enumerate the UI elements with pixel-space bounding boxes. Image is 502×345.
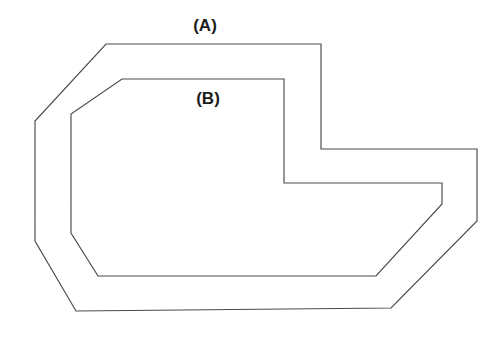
- label-b: (B): [196, 89, 220, 109]
- inner-polygon: [71, 79, 442, 276]
- label-a: (A): [193, 16, 217, 36]
- diagram-canvas: (A) (B): [0, 0, 502, 345]
- outer-polygon: [35, 44, 477, 311]
- polygon-drawing: [0, 0, 502, 345]
